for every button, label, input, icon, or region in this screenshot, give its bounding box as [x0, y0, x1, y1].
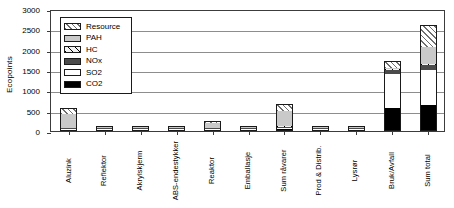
chart-legend: ResourcePAHHCNOxSO2CO2 — [60, 17, 132, 94]
legend-swatch-co2-icon — [64, 81, 81, 88]
legend-swatch-nox-icon — [64, 58, 81, 65]
bar-reflektor[interactable] — [96, 126, 113, 131]
bar-segment-co2 — [240, 130, 257, 131]
legend-label: CO2 — [86, 80, 102, 88]
legend-swatch-hc-icon — [64, 46, 81, 53]
bar-sum-total[interactable] — [420, 25, 437, 131]
x-axis-tick-labels: AluzinkReflektorAkrylskjermABS-endestykk… — [50, 134, 445, 208]
bar-segment-co2 — [204, 130, 221, 131]
bar-prod-distrib[interactable] — [312, 126, 329, 131]
bar-segment-co2 — [132, 130, 149, 131]
legend-item-nox[interactable]: NOx — [64, 56, 127, 68]
legend-item-res[interactable]: Resource — [64, 21, 127, 33]
bar-lysr-r[interactable] — [348, 126, 365, 131]
bar-aluzink[interactable] — [60, 108, 77, 131]
bar-segment-co2 — [60, 130, 77, 131]
bar-segment-co2 — [384, 108, 401, 131]
legend-swatch-res-icon — [64, 23, 81, 30]
bar-segment-co2 — [312, 130, 329, 131]
bar-emballasje[interactable] — [240, 126, 257, 131]
legend-item-pah[interactable]: PAH — [64, 33, 127, 45]
legend-swatch-pah-icon — [64, 35, 81, 42]
y-tick-mark — [47, 31, 51, 32]
legend-label: Resource — [86, 23, 120, 31]
y-tick-label: 2000 — [22, 46, 40, 55]
y-axis-title: Ecopoints — [2, 34, 16, 114]
y-tick-mark — [47, 72, 51, 73]
bar-sum-r-varer[interactable] — [276, 104, 293, 131]
bar-segment-so2 — [384, 74, 401, 108]
y-tick-mark — [47, 113, 51, 114]
bar-segment-so2 — [420, 70, 437, 105]
bar-segment-co2 — [96, 130, 113, 131]
bar-segment-res — [384, 61, 401, 68]
y-tick-mark — [47, 92, 51, 93]
bar-segment-pah — [420, 47, 437, 63]
legend-item-hc[interactable]: HC — [64, 44, 127, 56]
y-tick-label: 500 — [27, 107, 40, 116]
y-tick-label: 1000 — [22, 87, 40, 96]
bar-segment-res — [420, 25, 437, 47]
y-tick-label: 1500 — [22, 67, 40, 76]
legend-label: PAH — [86, 34, 102, 42]
legend-label: NOx — [86, 57, 102, 65]
legend-label: HC — [86, 46, 98, 54]
ecopoints-bar-chart: Ecopoints 050010001500200025003000 Aluzi… — [0, 0, 454, 208]
bar-akrylskjerm[interactable] — [132, 126, 149, 131]
legend-item-co2[interactable]: CO2 — [64, 79, 127, 91]
y-tick-mark — [47, 11, 51, 12]
y-tick-label: 3000 — [22, 6, 40, 15]
legend-label: SO2 — [86, 69, 102, 77]
bar-segment-res — [276, 104, 293, 111]
bar-segment-co2 — [276, 129, 293, 131]
bar-segment-co2 — [168, 130, 185, 131]
legend-swatch-so2-icon — [64, 69, 81, 76]
x-tick-label: Sum total — [390, 134, 454, 208]
bar-abs-endestykker[interactable] — [168, 126, 185, 131]
bar-segment-pah — [60, 114, 77, 127]
bar-reaktor[interactable] — [204, 121, 221, 131]
bar-bruk-avfall[interactable] — [384, 61, 401, 131]
y-tick-mark — [47, 52, 51, 53]
bar-segment-co2 — [420, 105, 437, 131]
bar-segment-pah — [276, 111, 293, 126]
y-tick-label: 2500 — [22, 26, 40, 35]
bar-segment-co2 — [348, 130, 365, 131]
legend-item-so2[interactable]: SO2 — [64, 67, 127, 79]
